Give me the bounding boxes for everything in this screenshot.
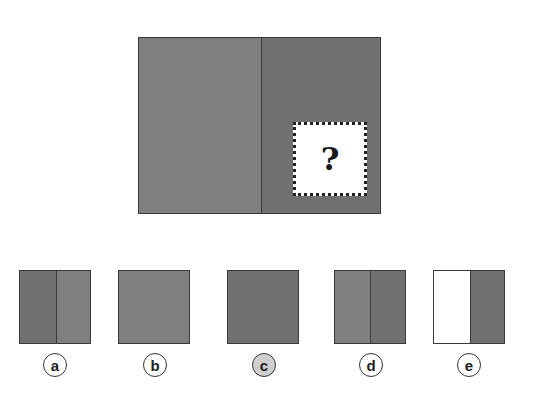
option-d-right-segment xyxy=(370,271,405,343)
option-c-label[interactable]: c xyxy=(252,353,276,377)
option-a-left-segment xyxy=(20,271,56,343)
option-b-label[interactable]: b xyxy=(143,353,167,377)
missing-piece-box: ? xyxy=(293,122,367,196)
option-e-left-segment xyxy=(434,271,470,343)
option-d[interactable] xyxy=(334,270,406,344)
option-a-right-segment xyxy=(56,271,90,343)
option-e[interactable] xyxy=(433,270,505,344)
figure-left-half xyxy=(139,38,262,213)
option-b-segment xyxy=(119,271,189,343)
figure-right-half: ? xyxy=(262,38,380,213)
option-a[interactable] xyxy=(19,270,91,344)
option-b[interactable] xyxy=(118,270,190,344)
puzzle-figure: ? xyxy=(138,37,381,214)
option-e-label[interactable]: e xyxy=(457,353,481,377)
option-d-left-segment xyxy=(335,271,370,343)
option-a-label[interactable]: a xyxy=(43,353,67,377)
option-c[interactable] xyxy=(227,270,299,344)
question-mark-icon: ? xyxy=(321,140,340,178)
option-c-segment xyxy=(228,271,298,343)
option-d-label[interactable]: d xyxy=(359,353,383,377)
option-e-right-segment xyxy=(470,271,504,343)
